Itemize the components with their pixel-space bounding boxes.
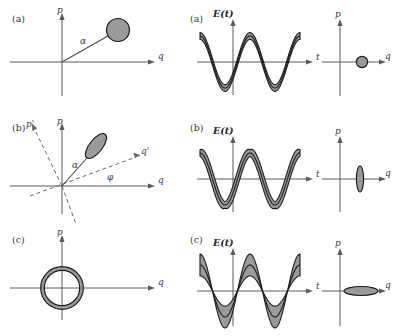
panel-a-q-axis-label: q (158, 51, 164, 61)
panel-b-phasor-p-label: p (335, 126, 341, 136)
panel-c-wave-label: (c) (190, 234, 203, 245)
panel-c-p-axis-label: p (57, 227, 63, 237)
panel-a-field-plot: (a) E(t) t (190, 8, 320, 95)
panel-c-phasor-p-label: p (335, 238, 341, 248)
panel-a-p-axis-label: p (57, 5, 63, 15)
panel-b-phasor-p-arrow-icon (337, 136, 342, 143)
panel-a-phasor-q-label: q (385, 51, 391, 61)
panel-b-dash-tail (62, 186, 76, 224)
panel-c-phase-space: (c) p q (10, 227, 164, 320)
panel-c-E-axis-label: E(t) (212, 237, 234, 248)
panel-a-phasor: p q (322, 9, 391, 96)
panel-a-alpha-vector (62, 32, 115, 62)
panel-b-q-prime-label: q' (141, 146, 149, 156)
panel-a-label: (a) (12, 13, 25, 24)
panel-c-t-arrow-icon (306, 288, 313, 293)
panel-a-E-axis-label: E(t) (212, 8, 234, 19)
panel-a-phasor-blob (356, 56, 367, 67)
panel-a-phasor-p-arrow-icon (337, 19, 342, 26)
panel-b-p-prime-axis (34, 128, 62, 186)
panel-a-wave-label: (a) (190, 13, 203, 24)
panel-c-E-arrow-icon (230, 248, 235, 255)
panel-c-label: (c) (12, 234, 25, 245)
panel-c-field-plot: (c) E(t) t (190, 234, 320, 328)
panel-b-phi-label: φ (107, 172, 114, 182)
panel-b-q-axis-label: q (158, 175, 164, 185)
panel-a-phase-space: (a) p q α (10, 5, 164, 96)
panel-b-phase-space: (b) p q p' q' φ α (10, 116, 164, 224)
panel-c-phasor: p q (322, 238, 391, 326)
panel-b-phasor-q-label: q (385, 168, 391, 178)
panel-b-E-arrow-icon (230, 136, 235, 143)
panel-c-phasor-p-arrow-icon (337, 248, 342, 255)
panel-b-t-axis-label: t (316, 169, 320, 179)
panel-b-E-axis-label: E(t) (212, 125, 234, 136)
panel-b-squeezed-blob (82, 130, 111, 162)
panel-a-alpha-label: α (80, 36, 86, 46)
panel-a-t-axis-label: t (316, 52, 320, 62)
figure-root: (a) p q α (a) E(t) t (0, 0, 393, 336)
panel-b-p-prime-label: p' (26, 119, 34, 129)
panel-b-phasor-blob (356, 166, 363, 192)
panel-c-t-axis-label: t (316, 281, 320, 291)
panel-b-p-axis-label: p (57, 116, 63, 126)
panel-c-phasor-q-label: q (385, 280, 391, 290)
panel-b-q-arrow-icon (148, 183, 155, 188)
panel-a-t-arrow-icon (306, 59, 313, 64)
panel-c-q-axis-label: q (158, 277, 164, 287)
panel-c-phasor-blob (344, 287, 378, 296)
panel-b-phasor: p q (322, 126, 391, 212)
panel-a-q-arrow-icon (148, 59, 155, 64)
figure-svg: (a) p q α (a) E(t) t (0, 0, 393, 336)
panel-b-field-plot: (b) E(t) t (190, 122, 320, 212)
panel-b-q-prime-arrow-icon (134, 153, 141, 159)
panel-b-alpha-label: α (72, 160, 78, 170)
panel-a-coherent-blob (107, 19, 130, 42)
panel-b-t-arrow-icon (306, 176, 313, 181)
panel-b-label: (b) (12, 122, 26, 133)
panel-b-wave-label: (b) (190, 122, 204, 133)
panel-c-q-arrow-icon (148, 285, 155, 290)
panel-a-E-arrow-icon (230, 19, 235, 26)
panel-a-phasor-p-label: p (335, 9, 341, 19)
